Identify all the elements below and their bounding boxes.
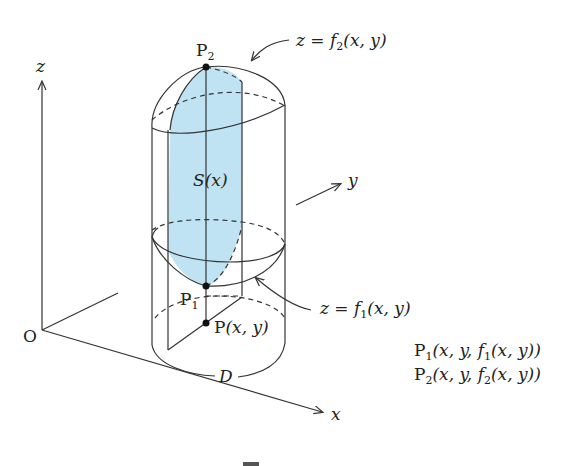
lower-surface-label: z = f1(x, y) — [319, 298, 411, 321]
upper-surface-label: z = f2(x, y) — [295, 30, 387, 53]
volume-diagram: O z x y P — [0, 0, 569, 466]
origin-label: O — [23, 326, 37, 346]
p1-label: P1 — [180, 289, 198, 312]
y-axis-arrow — [296, 184, 340, 205]
x-axis — [42, 330, 322, 412]
caption-fragment — [243, 462, 259, 466]
lower-surface-arrow — [256, 278, 311, 310]
p2-label: P2 — [196, 40, 214, 63]
upper-surface-arrow — [252, 40, 289, 60]
section-label: S(x) — [193, 170, 228, 190]
p2-coords: P2(x, y, f2(x, y)) — [414, 364, 541, 387]
z-axis-label: z — [35, 56, 46, 76]
point-p — [203, 320, 210, 327]
y-axis-label: y — [347, 170, 358, 190]
region-d-label: D — [218, 366, 233, 386]
p-label: P(x, y) — [214, 317, 269, 337]
point-p2 — [203, 64, 210, 71]
p1-coords: P1(x, y, f1(x, y)) — [414, 340, 541, 363]
point-p1 — [203, 283, 210, 290]
x-axis-label: x — [331, 404, 341, 424]
y-axis-near — [42, 293, 118, 330]
